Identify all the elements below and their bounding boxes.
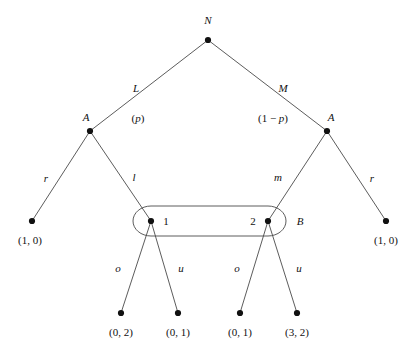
action-label-r-right: r bbox=[370, 173, 374, 184]
tree-edge-a-left-to-l bbox=[90, 131, 151, 221]
terminal-node-t-1-o bbox=[118, 310, 124, 316]
game-tree-canvas bbox=[0, 0, 414, 354]
action-label-u-right: u bbox=[296, 263, 302, 274]
tree-edge-b-two-to-o bbox=[240, 221, 268, 313]
tree-edge-a-right-to-r bbox=[327, 131, 386, 221]
payoff-t-2-o: (0, 1) bbox=[228, 327, 252, 338]
information-set-outline bbox=[133, 206, 286, 236]
node-label-b-one: 1 bbox=[163, 216, 169, 227]
tree-edge-b-one-to-o bbox=[121, 221, 151, 313]
action-label-o-left: o bbox=[115, 263, 121, 274]
decision-node-b-one bbox=[148, 218, 154, 224]
payoff-t-far-left: (1, 0) bbox=[18, 235, 42, 246]
tree-edge-root-to-a-left bbox=[90, 40, 208, 131]
node-label-root: N bbox=[204, 15, 211, 26]
decision-node-a-left bbox=[87, 128, 93, 134]
tree-edge-b-two-to-u bbox=[268, 221, 297, 313]
tree-edge-a-left-to-r bbox=[32, 131, 90, 221]
probability-prob-1-p: (1 − p) bbox=[258, 113, 288, 124]
probability-prob-p: (p) bbox=[132, 113, 145, 124]
action-label-o-right: o bbox=[234, 263, 240, 274]
decision-node-a-right bbox=[324, 128, 330, 134]
decision-node-root bbox=[205, 37, 211, 43]
payoff-t-far-right: (1, 0) bbox=[374, 235, 398, 246]
action-label-m: m bbox=[274, 172, 282, 183]
terminal-node-t-1-u bbox=[175, 310, 181, 316]
terminal-node-t-far-right bbox=[383, 218, 389, 224]
terminal-node-t-2-u bbox=[294, 310, 300, 316]
tree-edge-b-one-to-u bbox=[151, 221, 178, 313]
decision-node-b-two bbox=[265, 218, 271, 224]
nodes-group bbox=[29, 37, 389, 316]
information-set-oval bbox=[133, 206, 286, 236]
node-label-a-left: A bbox=[83, 112, 90, 123]
action-label-M: M bbox=[278, 83, 287, 94]
action-label-u-left: u bbox=[178, 263, 184, 274]
action-label-L: L bbox=[133, 83, 139, 94]
action-label-r-left: r bbox=[44, 173, 48, 184]
terminal-node-t-2-o bbox=[237, 310, 243, 316]
node-label-a-right: A bbox=[328, 112, 335, 123]
node-label-b-two: 2 bbox=[250, 216, 256, 227]
payoff-t-1-o: (0, 2) bbox=[109, 327, 133, 338]
payoff-t-2-u: (3, 2) bbox=[285, 327, 309, 338]
game-tree-figure: NAA12(1, 0)(1, 0)(0, 2)(0, 1)(0, 1)(3, 2… bbox=[0, 0, 414, 354]
edges-group bbox=[32, 40, 386, 313]
action-label-l: l bbox=[132, 172, 135, 183]
information-set-label: B bbox=[297, 216, 304, 227]
payoff-t-1-u: (0, 1) bbox=[166, 327, 190, 338]
terminal-node-t-far-left bbox=[29, 218, 35, 224]
